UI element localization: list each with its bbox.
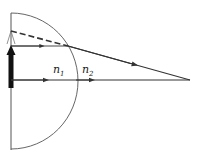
diagram-canvas <box>0 0 198 157</box>
object-arrow-shaft <box>9 52 14 88</box>
upper-ray-arrow2 <box>68 46 135 65</box>
object-arrow-head <box>7 45 16 55</box>
label-n1: n1 <box>53 64 65 78</box>
label-n2: n2 <box>82 64 94 78</box>
refraction-diagram: n1 n2 <box>0 0 198 157</box>
virtual-ray-dashed <box>11 31 68 46</box>
